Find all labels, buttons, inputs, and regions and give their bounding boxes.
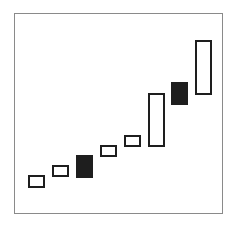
- candle-bearish: [76, 155, 93, 178]
- candlestick-plot: [0, 0, 238, 228]
- candle-bearish: [171, 82, 188, 105]
- candle-bullish: [52, 165, 69, 177]
- candle-bullish: [195, 40, 212, 95]
- candle-bullish: [100, 145, 117, 157]
- candle-bullish: [28, 175, 45, 188]
- candle-bullish: [148, 93, 165, 147]
- candle-bullish: [124, 135, 141, 147]
